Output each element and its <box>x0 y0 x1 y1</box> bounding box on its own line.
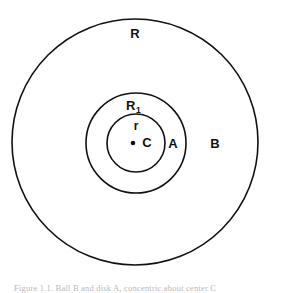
figure-caption-strip: Figure 1.1. Ball B and disk A, concentri… <box>0 284 285 293</box>
label-middle-radius-subscript: 1 <box>136 105 141 115</box>
label-region-A: A <box>168 136 178 151</box>
label-region-B: B <box>210 136 219 151</box>
label-outer-radius-R: R <box>130 26 140 41</box>
label-middle-radius-base: R <box>126 98 136 113</box>
label-inner-radius-r: r <box>134 119 139 133</box>
figure-container: R R 1 r C A B Figure 1.1. Ball B and dis… <box>0 0 285 293</box>
figure-caption: Figure 1.1. Ball B and disk A, concentri… <box>14 284 216 293</box>
label-middle-radius-R1: R 1 <box>126 98 141 115</box>
concentric-circles-diagram: R R 1 r C A B <box>0 0 285 293</box>
center-point-dot <box>131 141 136 146</box>
label-center-C: C <box>142 135 152 150</box>
